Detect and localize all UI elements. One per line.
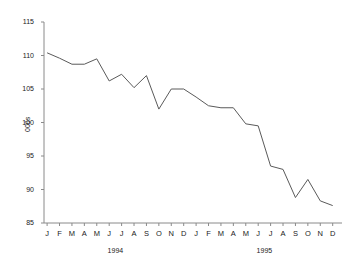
x-tick-label: D (178, 229, 190, 238)
year-label: 1994 (85, 247, 145, 254)
y-tick-label: 105 (14, 85, 34, 92)
x-tick-label: A (78, 229, 90, 238)
x-tick-label: S (289, 229, 301, 238)
line-chart: 000s 859095100105110115 JFMAMJJASONDJFMA… (0, 0, 355, 278)
x-tick-label: N (314, 229, 326, 238)
y-tick-label: 100 (14, 119, 34, 126)
x-tick-label: J (41, 229, 53, 238)
x-tick-label: S (140, 229, 152, 238)
x-tick-label: J (190, 229, 202, 238)
x-tick-label: A (277, 229, 289, 238)
data-series-line (47, 53, 333, 206)
x-tick-label: F (203, 229, 215, 238)
x-tick-label: M (66, 229, 78, 238)
x-tick-label: N (165, 229, 177, 238)
y-tick-label: 110 (14, 52, 34, 59)
x-tick-label: J (252, 229, 264, 238)
y-tick-label: 90 (14, 186, 34, 193)
y-tick-label: 95 (14, 152, 34, 159)
y-tick-label: 115 (14, 18, 34, 25)
x-tick-label: O (153, 229, 165, 238)
x-tick-label: O (302, 229, 314, 238)
x-tick-label: A (227, 229, 239, 238)
x-tick-label: A (128, 229, 140, 238)
x-tick-label: J (103, 229, 115, 238)
x-tick-label: F (54, 229, 66, 238)
x-tick-label: M (240, 229, 252, 238)
y-tick-label: 85 (14, 219, 34, 226)
x-tick-label: D (327, 229, 339, 238)
year-label: 1995 (234, 247, 294, 254)
x-tick-label: J (116, 229, 128, 238)
x-tick-label: M (91, 229, 103, 238)
x-tick-label: M (215, 229, 227, 238)
x-tick-label: J (265, 229, 277, 238)
